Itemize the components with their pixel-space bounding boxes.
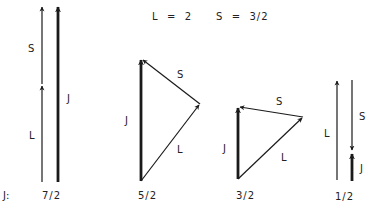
l-value-equation: L = 2 — [152, 11, 192, 22]
diagram-j-5-2: S L J 5/2 — [124, 60, 200, 201]
j-value-label: 5/2 — [138, 190, 157, 201]
j-value-label: 3/2 — [236, 190, 255, 201]
l-label: L — [177, 144, 183, 155]
vector-coupling-diagram: L = 2 S = 3/2 S L J 7/2 S L J 5/2 S L J … — [0, 0, 376, 216]
j-label: J — [222, 143, 226, 154]
l-vector-arrow — [238, 118, 302, 179]
j-label: J — [359, 163, 363, 174]
j-value-label: 7/2 — [42, 190, 61, 201]
s-label: S — [177, 69, 183, 80]
s-vector-arrow — [240, 107, 303, 117]
j-label: J — [124, 115, 128, 126]
l-vector-arrow — [141, 105, 199, 181]
j-row-label: J: — [2, 190, 9, 201]
l-label: L — [281, 152, 287, 163]
s-value-equation: S = 3/2 — [216, 11, 269, 22]
s-vector-arrow — [143, 60, 200, 104]
j-label: J — [66, 93, 70, 104]
diagram-j-7-2: S L J 7/2 — [28, 7, 70, 201]
diagram-j-1-2: S L J 1/2 — [324, 80, 365, 202]
l-label: L — [324, 128, 330, 139]
j-value-label: 1/2 — [335, 191, 354, 202]
l-label: L — [29, 130, 35, 141]
diagram-j-3-2: S L J 3/2 — [222, 96, 303, 201]
s-label: S — [359, 111, 365, 122]
s-label: S — [28, 43, 34, 54]
s-label: S — [276, 96, 282, 107]
